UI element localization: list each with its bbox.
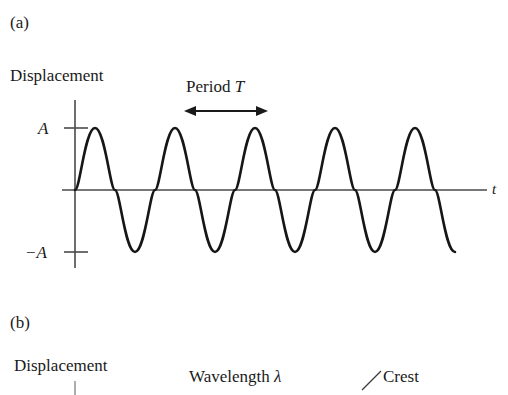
crest-leader-line	[362, 371, 381, 390]
wave-figure: (a) Displacement A −A Period T t (b) Dis…	[0, 0, 508, 395]
panel-b-plot	[0, 0, 508, 395]
